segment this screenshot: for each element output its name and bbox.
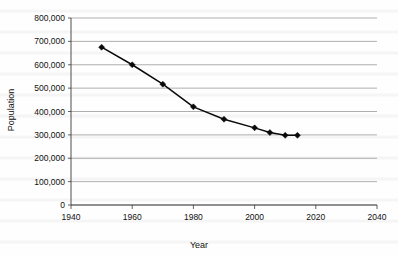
y-tick-label: 500,000 <box>34 83 65 93</box>
x-tick-label: 2040 <box>368 212 387 222</box>
x-tick-label: 2020 <box>306 212 325 222</box>
y-tick-label: 600,000 <box>34 60 65 70</box>
y-tick-label: 800,000 <box>34 13 65 23</box>
data-point-marker <box>294 132 300 138</box>
population-line-chart: 0100,000200,000300,000400,000500,000600,… <box>0 0 398 257</box>
data-point-marker <box>221 116 227 122</box>
x-tick-label: 1940 <box>62 212 81 222</box>
gridline-group <box>71 18 377 205</box>
population-line <box>102 47 298 135</box>
x-tick-label-group: 194019601980200020202040 <box>62 212 387 222</box>
y-tick-label: 400,000 <box>34 107 65 117</box>
data-point-marker <box>282 132 288 138</box>
y-tick-label: 200,000 <box>34 153 65 163</box>
x-tick-label: 1960 <box>123 212 142 222</box>
y-tick-label: 300,000 <box>34 130 65 140</box>
y-tick-label: 700,000 <box>34 36 65 46</box>
x-tick-group <box>71 205 377 209</box>
y-tick-label: 100,000 <box>34 177 65 187</box>
x-tick-label: 1980 <box>184 212 203 222</box>
y-tick-label: 0 <box>60 200 65 210</box>
x-tick-label: 2000 <box>245 212 264 222</box>
chart-figure: 0100,000200,000300,000400,000500,000600,… <box>0 0 398 257</box>
data-point-markers <box>99 44 301 138</box>
y-axis-title: Population <box>6 89 16 132</box>
x-axis-title: Year <box>190 240 208 250</box>
y-tick-label-group: 0100,000200,000300,000400,000500,000600,… <box>34 13 65 210</box>
data-point-marker <box>252 125 258 131</box>
data-point-marker <box>99 44 105 50</box>
